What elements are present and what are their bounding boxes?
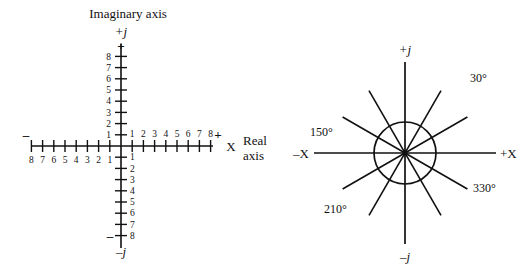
complex-plane-group: Imaginary axis +j + – –j – + X Real axis… xyxy=(22,6,267,259)
tick-label: 8 xyxy=(130,231,135,241)
angle-label-210: 210° xyxy=(324,202,347,216)
top-plus-sign: + xyxy=(117,38,124,53)
tick-label: 5 xyxy=(106,85,111,95)
tick-label: 6 xyxy=(106,74,111,84)
tick-label: 1 xyxy=(130,152,135,162)
tick-label: 4 xyxy=(163,129,168,139)
tick-label: 7 xyxy=(40,155,45,165)
phasor-plus-j-label: +j xyxy=(399,42,412,57)
tick-label: 3 xyxy=(106,108,111,118)
minus-j-label: –j xyxy=(115,244,127,259)
right-plus-sign: + xyxy=(214,127,221,142)
tick-label: 6 xyxy=(186,129,191,139)
figure-container: Imaginary axis +j + – –j – + X Real axis… xyxy=(0,0,526,265)
tick-label: 4 xyxy=(74,155,79,165)
x-axis-letter: X xyxy=(226,139,236,154)
tick-label: 3 xyxy=(152,129,157,139)
real-axis-label-line2: axis xyxy=(243,148,264,163)
tick-label: 2 xyxy=(141,129,146,139)
tick-label: 7 xyxy=(106,63,111,73)
phasor-minus-x-label: –X xyxy=(292,146,310,161)
tick-label: 1 xyxy=(106,130,111,140)
angle-label-150: 150° xyxy=(310,125,333,139)
bottom-minus-sign: – xyxy=(106,228,114,243)
angle-label-330: 330° xyxy=(473,181,496,195)
phasor-minus-j-label: –j xyxy=(399,249,411,264)
left-minus-sign: – xyxy=(22,127,30,142)
tick-label: 5 xyxy=(63,155,68,165)
tick-labels-negative-real: 8 7 6 5 4 3 2 1 xyxy=(29,155,112,165)
tick-labels-positive-real: 1 2 3 4 5 6 7 8 xyxy=(130,129,213,139)
tick-label: 4 xyxy=(130,186,135,196)
tick-label: 2 xyxy=(96,155,101,165)
origin-dot xyxy=(403,151,408,156)
tick-label: 4 xyxy=(106,96,111,106)
tick-label: 3 xyxy=(85,155,90,165)
tick-label: 2 xyxy=(106,119,111,129)
tick-labels-negative-imaginary: 1 2 3 4 5 6 7 8 xyxy=(130,152,135,240)
tick-labels-positive-imaginary: 8 7 6 5 4 3 2 1 xyxy=(106,52,111,140)
tick-label: 6 xyxy=(130,208,135,218)
phasor-plus-x-label: +X xyxy=(500,146,517,161)
tick-label: 8 xyxy=(106,52,111,62)
tick-label: 6 xyxy=(51,155,56,165)
tick-label: 2 xyxy=(130,164,135,174)
real-axis-label-line1: Real xyxy=(243,133,267,148)
imaginary-axis-title: Imaginary axis xyxy=(89,6,167,21)
phasor-diagram-group: +j –j –X +X 30° 150° 210° 330° xyxy=(292,42,517,264)
tick-label: 8 xyxy=(208,129,213,139)
tick-label: 5 xyxy=(175,129,180,139)
angle-label-30: 30° xyxy=(470,71,487,85)
tick-label: 1 xyxy=(130,129,135,139)
tick-label: 5 xyxy=(130,197,135,207)
plus-j-label: +j xyxy=(115,24,128,39)
tick-label: 8 xyxy=(29,155,34,165)
diagram-svg: Imaginary axis +j + – –j – + X Real axis… xyxy=(0,0,526,265)
tick-label: 3 xyxy=(130,175,135,185)
tick-label: 7 xyxy=(130,220,135,230)
tick-label: 7 xyxy=(197,129,202,139)
tick-label: 1 xyxy=(107,155,112,165)
